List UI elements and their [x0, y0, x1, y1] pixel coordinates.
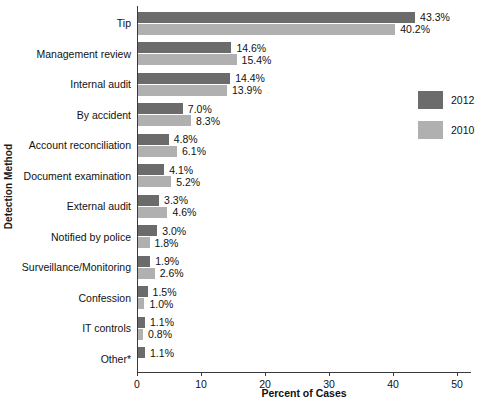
- bar-value-label: 4.6%: [172, 206, 196, 218]
- bar-value-label: 4.1%: [169, 164, 193, 176]
- x-tick-mark: [457, 372, 458, 376]
- category-row: Notified by police3.0%1.8%: [137, 222, 471, 253]
- category-label: External audit: [67, 200, 131, 212]
- bar-value-label: 1.1%: [150, 316, 174, 328]
- category-row: Confession1.5%1.0%: [137, 283, 471, 314]
- bar-value-label: 5.2%: [176, 176, 200, 188]
- x-tick-mark: [265, 372, 266, 376]
- bar-value-label: 3.3%: [164, 194, 188, 206]
- category-row: IT controls1.1%0.8%: [137, 313, 471, 344]
- bar-value-label: 0.8%: [148, 328, 172, 340]
- bar-value-label: 15.4%: [242, 54, 272, 66]
- bar-2012: 1.9%: [138, 256, 150, 267]
- bar-2012: 3.3%: [138, 195, 159, 206]
- bar-value-label: 1.8%: [155, 237, 179, 249]
- bar-value-label: 14.4%: [235, 72, 265, 84]
- bar-2010: 13.9%: [138, 85, 227, 96]
- bar-2012: 14.4%: [138, 73, 230, 84]
- category-label: Management review: [36, 48, 131, 60]
- category-label: By accident: [77, 109, 131, 121]
- bar-value-label: 1.5%: [153, 286, 177, 298]
- bar-2010: 1.8%: [138, 237, 150, 248]
- bar-2012: 1.1%: [138, 347, 145, 358]
- x-tick-mark: [137, 372, 138, 376]
- bar-2010: 15.4%: [138, 54, 237, 65]
- category-label: Other*: [101, 353, 131, 365]
- bar-value-label: 13.9%: [232, 84, 262, 96]
- bar-chart: Detection Method Tip43.3%40.2%Management…: [0, 0, 493, 406]
- bar-value-label: 14.6%: [236, 42, 266, 54]
- bar-value-label: 3.0%: [162, 225, 186, 237]
- category-label: IT controls: [82, 322, 131, 334]
- bar-2012: 1.5%: [138, 286, 148, 297]
- bar-value-label: 43.3%: [420, 11, 450, 23]
- category-label: Tip: [117, 17, 131, 29]
- x-tick-mark: [393, 372, 394, 376]
- bar-2010: 6.1%: [138, 146, 177, 157]
- bar-2012: 1.1%: [138, 317, 145, 328]
- y-axis-title: Detection Method: [0, 0, 18, 372]
- category-row: External audit3.3%4.6%: [137, 191, 471, 222]
- bar-value-label: 2.6%: [160, 267, 184, 279]
- category-row: Management review14.6%15.4%: [137, 39, 471, 70]
- category-row: Surveillance/Monitoring1.9%2.6%: [137, 252, 471, 283]
- bar-2012: 7.0%: [138, 103, 183, 114]
- legend-label: 2010: [451, 124, 474, 136]
- bar-2010: 4.6%: [138, 207, 167, 218]
- bar-value-label: 1.1%: [150, 347, 174, 359]
- bar-value-label: 6.1%: [182, 145, 206, 157]
- bar-2010: 40.2%: [138, 24, 395, 35]
- bar-value-label: 1.0%: [149, 298, 173, 310]
- category-label: Surveillance/Monitoring: [22, 261, 131, 273]
- bar-value-label: 8.3%: [196, 115, 220, 127]
- bar-value-label: 7.0%: [188, 103, 212, 115]
- category-row: Tip43.3%40.2%: [137, 8, 471, 39]
- bar-2010: 1.0%: [138, 298, 144, 309]
- y-axis-title-text: Detection Method: [4, 143, 15, 229]
- x-axis-title: Percent of Cases: [137, 387, 471, 399]
- category-row: Document examination4.1%5.2%: [137, 161, 471, 192]
- category-label: Document examination: [24, 170, 131, 182]
- bar-2010: 8.3%: [138, 115, 191, 126]
- bar-2012: 14.6%: [138, 42, 231, 53]
- category-label: Confession: [78, 292, 131, 304]
- bar-2012: 4.8%: [138, 134, 169, 145]
- legend-item[interactable]: 2012: [418, 88, 490, 112]
- category-label: Internal audit: [70, 78, 131, 90]
- bar-2010: 2.6%: [138, 268, 155, 279]
- bar-2012: 4.1%: [138, 164, 164, 175]
- bar-2010: 0.8%: [138, 329, 143, 340]
- x-tick-mark: [329, 372, 330, 376]
- legend-item[interactable]: 2010: [418, 118, 490, 142]
- bar-2012: 43.3%: [138, 12, 415, 23]
- legend-label: 2012: [451, 94, 474, 106]
- legend-swatch-icon: [418, 91, 443, 109]
- legend-swatch-icon: [418, 121, 443, 139]
- bar-2010: 5.2%: [138, 176, 171, 187]
- category-label: Notified by police: [51, 231, 131, 243]
- x-tick-mark: [201, 372, 202, 376]
- bar-value-label: 4.8%: [174, 133, 198, 145]
- bar-value-label: 40.2%: [400, 23, 430, 35]
- category-row: Other*1.1%: [137, 344, 471, 375]
- bar-2012: 3.0%: [138, 225, 157, 236]
- plot-area: Tip43.3%40.2%Management review14.6%15.4%…: [137, 6, 471, 372]
- bar-value-label: 1.9%: [155, 255, 179, 267]
- category-label: Account reconciliation: [29, 139, 131, 151]
- legend: 20122010: [418, 88, 490, 148]
